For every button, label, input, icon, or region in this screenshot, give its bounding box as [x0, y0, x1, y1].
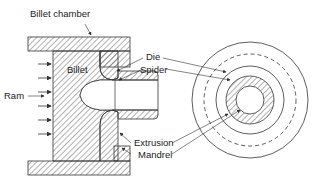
extrusion-bottom [112, 110, 158, 119]
label-ram: Ram [4, 90, 24, 101]
label-spider: Spider [140, 64, 167, 75]
label-billet: Billet [67, 64, 88, 75]
label-extrusion: Extrusion [134, 137, 174, 148]
mandrel [80, 80, 158, 110]
end-view [192, 42, 308, 158]
die [100, 51, 118, 80]
label-billet-chamber: Billet chamber [30, 8, 90, 19]
extrusion-diagram: Billet chamber Billet Ram Die Spider Ext… [0, 0, 322, 189]
label-mandrel: Mandrel [138, 149, 172, 160]
ram-arrows [38, 64, 51, 134]
spider [100, 110, 118, 161]
label-die: Die [146, 51, 160, 62]
